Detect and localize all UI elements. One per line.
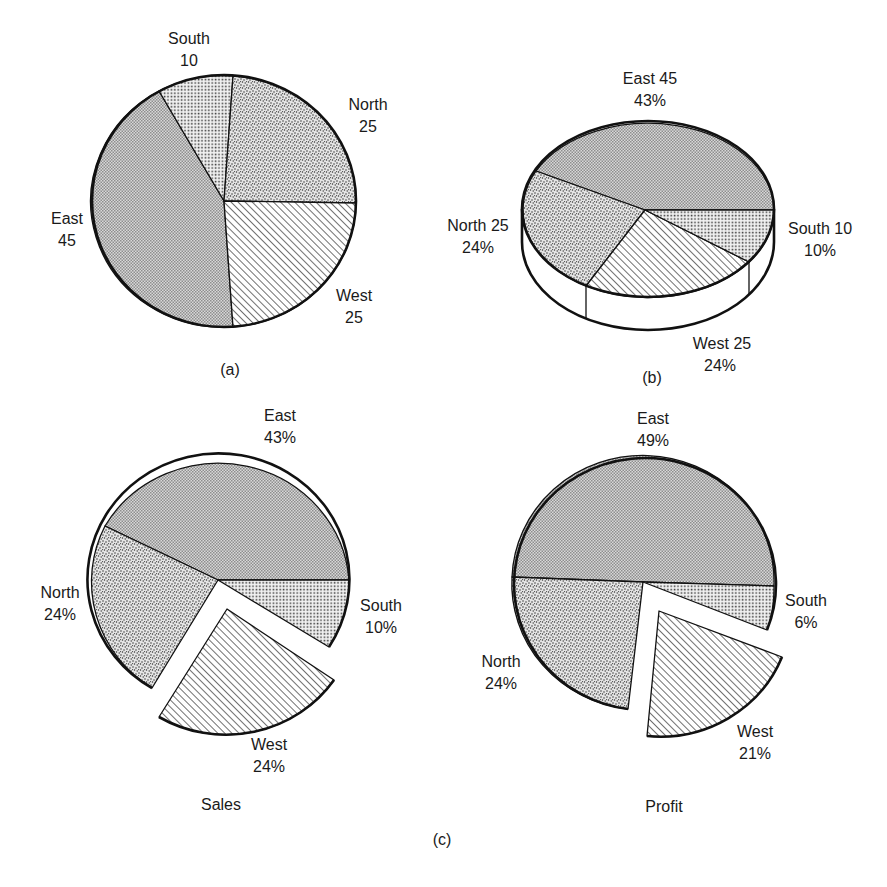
label-east-profit: East (637, 410, 670, 427)
value-north-a: 25 (359, 118, 377, 135)
label-south-b: South 10 (788, 220, 852, 237)
slice-west (224, 201, 356, 327)
slice-west-profit (647, 611, 782, 737)
value-west-sales: 24% (253, 758, 285, 775)
value-west-a: 25 (345, 309, 363, 326)
value-east-sales: 43% (264, 429, 296, 446)
label-south-a: South (168, 30, 210, 47)
caption-c: (c) (433, 831, 452, 848)
slice-east-profit (512, 455, 774, 586)
label-west-profit: West (737, 723, 774, 740)
slice-north-profit (512, 577, 643, 709)
caption-b: (b) (642, 369, 662, 386)
label-west-a: West (336, 287, 373, 304)
value-south-a: 10 (180, 52, 198, 69)
pie-a: South 10 North 25 East 45 West 25 (a) (51, 30, 388, 378)
label-east-sales: East (264, 407, 297, 424)
value-north-b: 24% (462, 239, 494, 256)
value-south-sales: 10% (365, 619, 397, 636)
value-south-b: 10% (804, 242, 836, 259)
caption-a: (a) (220, 361, 240, 378)
label-east-a: East (51, 210, 84, 227)
pie-c-sales: East 43% North 24% South 10% West 24% Sa… (40, 407, 401, 813)
slice-north (224, 76, 356, 203)
pie-c-profit: East 49% South 6% North 24% West 21% Pro… (481, 410, 826, 815)
pie-chart-figure: South 10 North 25 East 45 West 25 (a) Ea… (0, 0, 887, 887)
label-north-a: North (348, 96, 387, 113)
label-south-profit: South (785, 592, 827, 609)
value-west-profit: 21% (739, 745, 771, 762)
value-east-b: 43% (634, 92, 666, 109)
label-north-profit: North (481, 653, 520, 670)
label-east-b: East 45 (623, 70, 677, 87)
pie-b: East 45 43% North 25 24% South 10 10% We… (447, 70, 852, 386)
label-south-sales: South (360, 597, 402, 614)
value-east-a: 45 (58, 232, 76, 249)
value-north-profit: 24% (485, 675, 517, 692)
title-profit: Profit (645, 798, 683, 815)
title-sales: Sales (201, 796, 241, 813)
value-west-b: 24% (704, 357, 736, 374)
label-north-sales: North (40, 584, 79, 601)
value-north-sales: 24% (44, 606, 76, 623)
value-south-profit: 6% (794, 614, 817, 631)
label-north-b: North 25 (447, 217, 508, 234)
label-west-sales: West (251, 736, 288, 753)
label-west-b: West 25 (693, 335, 752, 352)
value-east-profit: 49% (637, 432, 669, 449)
